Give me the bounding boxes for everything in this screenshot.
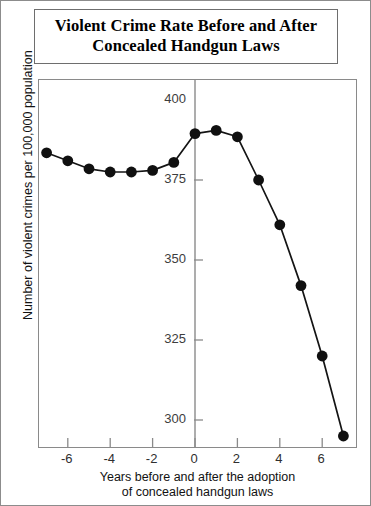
data-point-marker [274, 219, 285, 230]
data-point-marker [232, 131, 243, 142]
x-axis-title-line-1: Years before and after the adoption [38, 470, 357, 485]
chart-title-box: Violent Crime Rate Before and After Conc… [34, 9, 338, 64]
data-point-marker [84, 163, 95, 174]
data-point-marker [190, 128, 201, 139]
chart-title-line-2: Concealed Handgun Laws [39, 36, 333, 56]
data-point-marker [105, 167, 116, 178]
chart-figure: Violent Crime Rate Before and After Conc… [0, 0, 371, 506]
y-tick-label: 300 [146, 411, 186, 426]
data-point-marker [317, 351, 328, 362]
plot-area [38, 79, 357, 448]
y-axis-title: Number of violent crimes per 100,000 pop… [18, 60, 36, 320]
x-axis-title-line-2: of concealed handgun laws [38, 485, 357, 500]
data-point-marker [253, 175, 264, 186]
y-tick-label: 325 [146, 331, 186, 346]
x-tick-label: 0 [181, 451, 207, 466]
x-tick-label: -2 [139, 451, 165, 466]
x-tick-label: -4 [96, 451, 122, 466]
x-tick-label: 2 [223, 451, 249, 466]
data-point-marker [168, 157, 179, 168]
data-point-marker [338, 431, 349, 442]
y-tick-label: 350 [146, 251, 186, 266]
x-tick-label: -6 [54, 451, 80, 466]
data-point-marker [126, 167, 137, 178]
y-tick-label: 375 [146, 171, 186, 186]
data-point-marker [296, 280, 307, 291]
x-tick-label: 4 [266, 451, 292, 466]
chart-title-line-1: Violent Crime Rate Before and After [39, 16, 333, 36]
data-point-marker [62, 155, 73, 166]
x-tick-label: 6 [308, 451, 334, 466]
line-chart-svg [39, 80, 356, 447]
data-point-marker [211, 125, 222, 136]
y-tick-label: 400 [146, 91, 186, 106]
x-axis-title: Years before and after the adoption of c… [38, 470, 357, 500]
data-point-marker [41, 147, 52, 158]
